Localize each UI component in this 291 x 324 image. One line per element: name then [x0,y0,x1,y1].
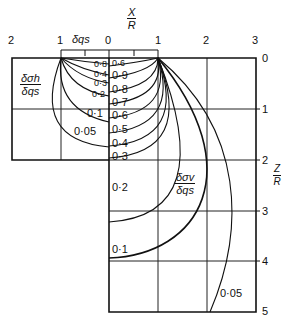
z-tick: 2 [262,155,268,166]
x-tick: 2 [203,35,209,46]
contour-label: 0·5 [112,124,128,135]
load-strip [61,50,158,58]
x-tick: 0 [105,35,111,46]
x-label-den: R [128,19,136,31]
contour-label: 0·6 [112,59,125,68]
contour-label: 0·7 [112,97,128,108]
title-den: δqs [22,85,40,97]
grid-lines [12,58,256,312]
x-axis-label: X R [127,6,136,31]
contour-label: 0·05 [74,126,96,137]
contour-label: 0·9 [112,70,128,81]
title-num: δσv [175,171,195,184]
z-tick: 3 [262,206,268,217]
vertical-stress-title: δσv δqs [175,171,195,196]
title-num: δσh [20,72,41,85]
contour-label: 0·6 [112,110,128,121]
z-label-num: Z [273,163,281,176]
contour-label: 0·4 [112,138,128,149]
contour-label: 0·2 [92,90,105,99]
contour-label: 0·2 [112,182,128,193]
x-tick: 3 [252,35,258,46]
stress-isobar-diagram [0,0,291,324]
z-label-den: R [273,176,280,187]
x-label-num: X [127,6,136,19]
z-tick: 5 [262,306,268,317]
z-tick: 4 [262,256,268,267]
z-tick: 0 [262,53,268,64]
x-tick: 1 [155,35,161,46]
z-axis-label: Z R [273,163,281,188]
x-tick: 2 [8,35,14,46]
contour-label: 0·1 [87,108,103,119]
load-label: δqs [72,34,90,45]
contour-label: 0·8 [94,60,107,69]
panel-frames [12,58,256,312]
contour-label: 0·8 [112,84,128,95]
title-den: δqs [176,184,194,196]
contour-label: 0·3 [94,79,107,88]
horizontal-stress-title: δσh δqs [20,72,41,97]
contour-label: 0·3 [112,151,128,162]
x-tick: 1 [57,35,63,46]
contour-label: 0·05 [220,288,242,299]
z-tick: 1 [262,104,268,115]
contour-label: 0·1 [112,244,128,255]
